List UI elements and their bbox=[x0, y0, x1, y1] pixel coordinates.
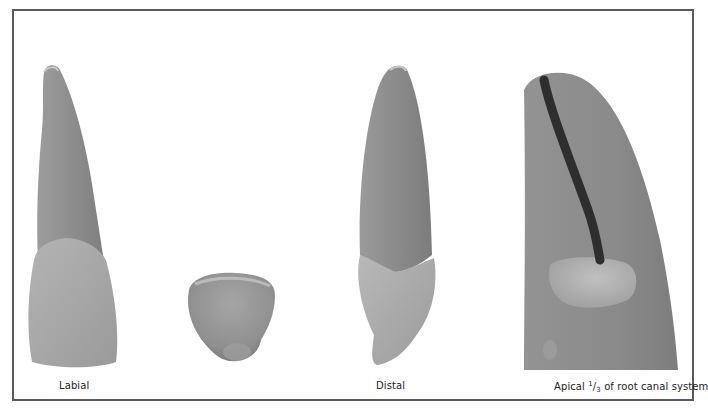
labial-view-panel bbox=[20, 60, 140, 370]
apical-view-panel bbox=[510, 60, 690, 370]
distal-view-panel bbox=[350, 60, 450, 370]
distal-label: Distal bbox=[376, 380, 405, 391]
fraction-denominator: 3 bbox=[596, 386, 601, 394]
apical-label-suffix: of root canal system bbox=[604, 381, 708, 392]
apical-label: Apical 1/3 of root canal system bbox=[554, 380, 708, 394]
labial-label: Labial bbox=[59, 380, 89, 391]
incisal-tooth-illustration bbox=[175, 260, 285, 370]
distal-tooth-illustration bbox=[350, 60, 450, 370]
labial-tooth-illustration bbox=[20, 60, 140, 370]
root-canal-illustration bbox=[510, 60, 690, 370]
incisal-view-panel bbox=[175, 260, 285, 370]
apical-label-prefix: Apical bbox=[554, 381, 585, 392]
